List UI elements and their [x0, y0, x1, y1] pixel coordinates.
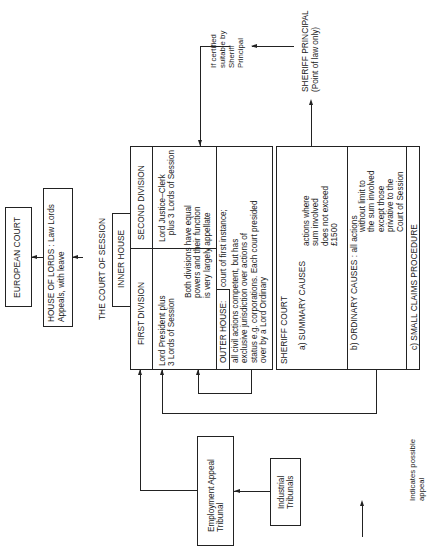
- both-divisions-note: Both divisions have equal powers and the…: [184, 205, 212, 298]
- legend-arrow-line: [362, 503, 363, 537]
- certified-note: If certified suitable by Sheriff Princip…: [209, 31, 245, 68]
- arrow-head: [196, 369, 200, 375]
- second-division-label: SECOND DIVISION: [137, 165, 146, 240]
- sheriff-principal-line1: SHERIFF PRINCIPAL: [301, 10, 310, 92]
- sheriff-principal-line2: (Point of law only): [311, 27, 320, 92]
- connector-outer-inner: [198, 393, 251, 394]
- connector-note-cos: [200, 46, 201, 146]
- summary-causes-label: a) SUMMARY CAUSES: [298, 261, 307, 350]
- summary-causes-desc: actions where sum involved does not exce…: [302, 186, 340, 246]
- court-of-session-title: THE COURT OF SESSION: [98, 218, 107, 320]
- legend-label: Indicates possible appeal: [408, 439, 426, 501]
- divider: [152, 146, 153, 370]
- second-division-desc: Lord Justice–Clerk plus 3 Lords of Sessi…: [158, 150, 177, 242]
- ordinary-causes-desc: without limit to the sum involved except…: [358, 171, 405, 232]
- house-of-lords-line2: Appeals, with leave: [57, 251, 66, 322]
- legend-arrow-head: [360, 500, 364, 506]
- connector-sp-note: [252, 46, 294, 47]
- connector-eat-cos: [140, 370, 141, 491]
- employment-appeal-tribunal-label: Employment Appeal Tribunal: [207, 459, 226, 532]
- arrow-head: [234, 489, 240, 493]
- ordinary-causes-label: b) ORDINARY CAUSES : all actions: [350, 215, 359, 350]
- inner-house-label: INNER HOUSE: [117, 230, 126, 288]
- connector-outer-inner: [251, 370, 252, 394]
- first-division-label: FIRST DIVISION: [137, 282, 146, 345]
- house-of-lords-line1: HOUSE OF LORDS : Law Lords: [47, 204, 56, 322]
- arrow-head: [160, 369, 164, 375]
- first-division-desc: Lord President plus 3 Lords of Session: [158, 295, 177, 366]
- european-court-label: EUROPEAN COURT: [13, 217, 22, 298]
- arrow-head: [72, 255, 78, 259]
- industrial-tribunals-label: Industrial Tribunals: [277, 476, 296, 509]
- connector-sc-cos: [162, 370, 163, 414]
- connector-eat-cos: [140, 490, 197, 491]
- small-claims-label: c) SMALL CLAIMS PROCEDURE: [410, 224, 419, 350]
- divider: [406, 146, 407, 370]
- connector-sc-cos: [162, 413, 376, 414]
- connector-sc-cos: [376, 370, 377, 414]
- divider: [347, 146, 348, 370]
- arrow-head: [138, 369, 142, 375]
- arrow-head: [31, 255, 37, 259]
- outer-house-desc: all civil actions competent, but has exc…: [231, 201, 269, 363]
- outer-house-label: OUTER HOUSE:: [219, 301, 228, 363]
- arrow-head: [198, 140, 202, 146]
- arrow-head: [309, 99, 313, 105]
- connector-sc-sp: [311, 102, 312, 146]
- outer-house-desc-first: court of first instance;: [219, 209, 228, 287]
- sheriff-court-title: SHERIFF COURT: [280, 296, 289, 364]
- arrow-head: [251, 44, 257, 48]
- connector-note-cos: [200, 46, 230, 47]
